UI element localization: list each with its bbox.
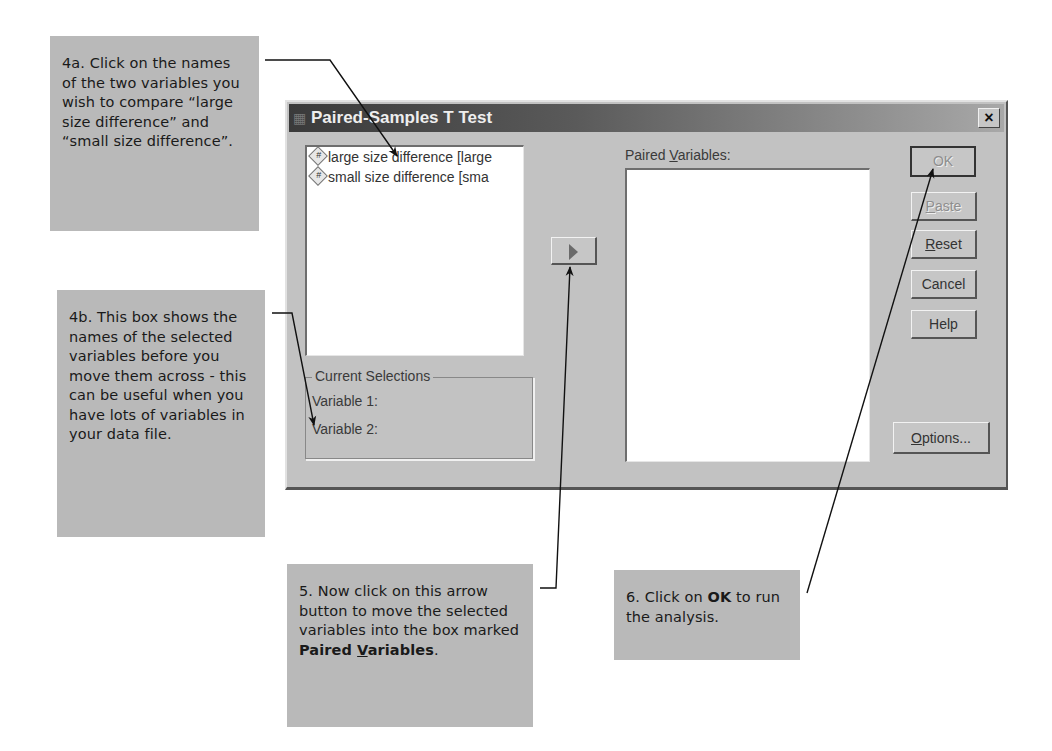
callout-4a: 4a. Click on the names of the two variab…: [50, 36, 259, 231]
callout-6-ok: OK: [707, 589, 731, 605]
callout-5-text: 5. Now click on this arrow button to mov…: [299, 583, 519, 638]
paste-button[interactable]: Paste: [911, 192, 977, 221]
callout-5-bold: Paired Variables: [299, 642, 434, 658]
ok-button[interactable]: OK: [910, 146, 976, 177]
callout-5: 5. Now click on this arrow button to mov…: [287, 564, 533, 727]
options-button[interactable]: Options...: [893, 422, 990, 454]
list-item[interactable]: #small size difference [sma: [307, 167, 523, 187]
cancel-button[interactable]: Cancel: [911, 270, 977, 299]
numeric-variable-icon: #: [308, 166, 328, 186]
callout-4b-text: 4b. This box shows the names of the sele…: [69, 309, 246, 442]
list-item[interactable]: #large size difference [large: [307, 147, 523, 167]
title-bar[interactable]: ▦ Paired-Samples T Test ×: [289, 104, 1004, 132]
callout-4a-text: 4a. Click on the names of the two variab…: [62, 55, 240, 149]
reset-button[interactable]: Reset: [911, 230, 977, 259]
move-variables-button[interactable]: [551, 237, 597, 265]
variable2-label: Variable 2:: [312, 421, 378, 437]
source-variable-list[interactable]: #large size difference [large #small siz…: [305, 145, 524, 356]
current-selections-title: Current Selections: [312, 368, 433, 384]
callout-6: 6. Click on OK to run the analysis.: [614, 570, 800, 660]
paired-variables-label: Paired Variables:: [625, 147, 731, 163]
current-selections-group: Current Selections Variable 1: Variable …: [305, 377, 534, 460]
right-arrow-icon: [569, 244, 578, 260]
dialog-title: Paired-Samples T Test: [311, 108, 492, 128]
help-button[interactable]: Help: [911, 310, 977, 339]
paired-samples-dialog: ▦ Paired-Samples T Test × #large size di…: [285, 100, 1008, 490]
variable1-label: Variable 1:: [312, 393, 378, 409]
paired-variables-list[interactable]: [625, 168, 870, 462]
numeric-variable-icon: #: [308, 146, 328, 166]
close-button[interactable]: ×: [978, 108, 1000, 128]
spss-app-icon: ▦: [293, 110, 309, 126]
callout-4b: 4b. This box shows the names of the sele…: [57, 290, 265, 537]
